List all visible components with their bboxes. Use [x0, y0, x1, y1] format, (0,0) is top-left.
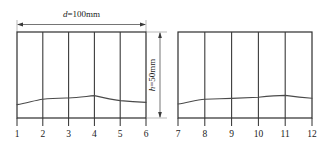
width-arrowhead-right: [140, 23, 146, 27]
figure-container: d=100mm 1 2 3 4 5 6: [0, 0, 327, 149]
technical-diagram: d=100mm 1 2 3 4 5 6: [0, 0, 327, 149]
tick-label-5: 5: [118, 129, 123, 139]
height-arrowhead-bottom: [158, 112, 162, 118]
width-value: =100mm: [67, 9, 100, 19]
tick-label-12: 12: [307, 129, 317, 139]
tick-label-7: 7: [176, 129, 181, 139]
tick-label-6: 6: [144, 129, 149, 139]
width-dimension-label: d=100mm: [63, 9, 100, 19]
tick-label-1: 1: [15, 129, 20, 139]
height-dimension-label: h=50mm: [147, 59, 157, 92]
tick-label-10: 10: [254, 129, 264, 139]
height-value: =50mm: [147, 59, 157, 87]
tick-label-3: 3: [66, 129, 71, 139]
left-block-outline: [17, 32, 146, 118]
width-arrowhead-left: [17, 23, 23, 27]
tick-label-4: 4: [92, 129, 97, 139]
right-block-group: 7 8 9 10 11 12: [176, 32, 317, 139]
height-dimension-group: h=50mm: [146, 32, 167, 118]
tick-label-8: 8: [202, 129, 207, 139]
left-block-group: d=100mm 1 2 3 4 5 6: [15, 9, 149, 139]
height-arrowhead-top: [158, 32, 162, 38]
tick-label-9: 9: [229, 129, 234, 139]
tick-label-2: 2: [40, 129, 45, 139]
tick-label-11: 11: [281, 129, 290, 139]
right-block-outline: [178, 32, 312, 118]
